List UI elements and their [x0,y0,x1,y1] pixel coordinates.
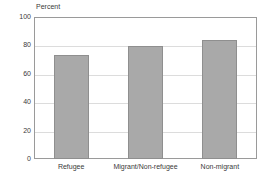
bar [128,46,163,159]
bars-group [34,17,257,159]
bar-chart: Percent 020406080100 RefugeeMigrant/Non-… [0,0,268,182]
y-axis-tick-label: 20 [3,127,31,135]
y-axis-tick-label: 0 [3,155,31,163]
bar [202,40,237,159]
x-axis-category-label: Non-migrant [201,162,240,171]
bar [54,55,89,159]
y-axis-tick-labels: 020406080100 [0,17,31,159]
y-axis-unit-label: Percent [36,2,60,11]
x-axis-category-label: Migrant/Non-refugee [113,162,177,171]
y-axis-tick-label: 60 [3,70,31,78]
y-axis-tick-label: 100 [3,13,31,21]
x-axis-category-label: Refugee [58,162,84,171]
x-axis-category-labels: RefugeeMigrant/Non-refugeeNon-migrant [34,162,257,178]
y-axis-tick-label: 40 [3,98,31,106]
y-axis-tick-label: 80 [3,41,31,49]
